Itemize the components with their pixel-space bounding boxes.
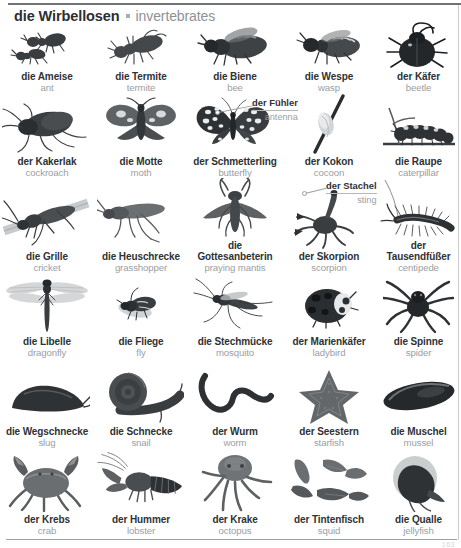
centipede-illustration [378,178,459,238]
label-german: die Muschel [390,426,446,437]
entry-labels: der Tausendfüßer centipede [378,240,459,274]
label-german: die Wespe [305,71,353,82]
entry-labels: der Schmetterling butterfly [193,156,276,179]
label-german: der Marienkäfer [293,336,366,347]
entry-ant[interactable]: die Ameise ant [0,26,94,94]
callout-english: sting [326,195,377,205]
page-number: 163 [442,541,455,548]
callout-german: der Stachel [326,181,377,192]
entry-moth[interactable]: die Motte moth [94,94,188,179]
label-german: die Gottesanbeterin [190,240,280,262]
label-english: fly [118,348,163,359]
mosquito-illustration [190,274,280,334]
callout-underline [326,193,377,194]
worm-illustration [190,368,280,424]
label-english: starfish [299,438,358,449]
ladybird-illustration [284,274,374,334]
label-german: der Krake [212,514,257,525]
entry-labels: die Wespe wasp [305,71,353,94]
label-english: termite [115,83,167,94]
entry-centipede[interactable]: der Tausendfüßer centipede [376,179,461,274]
label-german: die Libelle [23,336,71,347]
entry-spider[interactable]: die Spinne spider [376,274,461,359]
label-english: cricket [26,263,68,274]
entry-row: die Grille cricket [0,179,461,274]
entry-labels: der Krake octopus [212,514,257,537]
callout-sting: der Stachel sting [326,181,377,205]
label-german: die Ameise [21,71,72,82]
label-german: die Schnecke [110,426,173,437]
entry-termite[interactable]: die Termite termite [94,26,188,94]
invertebrates-vocabulary-page: die Wirbellosen invertebrates [0,0,461,548]
label-german: der Kokon [305,156,354,167]
entry-snail[interactable]: die Schnecke snail [94,359,188,449]
praying-mantis-illustration [190,178,280,238]
entry-row: der Krebs crab [0,449,461,537]
top-rule [8,3,461,5]
entry-slug[interactable]: die Wegschnecke slug [0,359,94,449]
entry-labels: die Raupe caterpillar [395,156,442,179]
callout-anchor-sting [302,191,307,196]
label-german: der Skorpion [299,251,359,262]
entry-crab[interactable]: der Krebs crab [0,449,94,537]
callout-english: antenna [252,112,298,122]
entry-fly[interactable]: die Fliege fly [94,274,188,359]
entry-ladybird[interactable]: der Marienkäfer ladybird [282,274,376,359]
entry-dragonfly[interactable]: die Libelle dragonfly [0,274,94,359]
entry-squid[interactable]: der Tintenfisch squid [282,449,376,537]
entry-beetle[interactable]: der Käfer beetle [376,26,461,94]
entry-cricket[interactable]: die Grille cricket [0,179,94,274]
entry-row: der Kakerlak cockroach [0,94,461,179]
grasshopper-illustration [96,189,186,249]
label-english: ant [21,83,72,94]
label-english: cocoon [305,168,354,179]
entry-worm[interactable]: der Wurm worm [188,359,282,449]
entry-caterpillar[interactable]: die Raupe caterpillar [376,94,461,179]
entry-grasshopper[interactable]: die Heuschrecke grasshopper [94,179,188,274]
bee-illustration [190,25,280,69]
label-german: der Krebs [24,514,70,525]
slug-illustration [2,368,92,424]
dragonfly-illustration [2,274,92,334]
page-title-english: invertebrates [136,8,216,24]
label-english: moth [120,168,163,179]
entry-wasp[interactable]: die Wespe wasp [282,26,376,94]
entry-starfish[interactable]: der Seestern starfish [282,359,376,449]
entry-labels: die Schnecke snail [110,426,173,449]
entry-labels: der Marienkäfer ladybird [293,336,366,359]
label-english: centipede [378,263,459,274]
label-german: die Heuschrecke [102,251,180,262]
label-german: der Schmetterling [193,156,276,167]
octopus-illustration [190,452,280,512]
bullet-separator-icon [126,14,130,18]
bottom-rule [6,539,457,540]
entry-labels: die Wegschnecke slug [6,426,88,449]
entry-lobster[interactable]: der Hummer lobster [94,449,188,537]
callout-antenna: der Fühler antenna [252,98,298,122]
label-english: cockroach [18,168,77,179]
entry-labels: die Fliege fly [118,336,163,359]
label-german: der Tintenfisch [294,514,364,525]
label-english: spider [394,348,444,359]
entry-praying-mantis[interactable]: die Gottesanbeterin praying mantis [188,179,282,274]
entry-labels: der Skorpion scorpion [299,251,359,274]
entry-labels: die Grille cricket [26,251,68,274]
label-german: der Wurm [212,426,258,437]
entry-labels: die Motte moth [120,156,163,179]
callout-underline [252,110,298,111]
entry-cockroach[interactable]: der Kakerlak cockroach [0,94,94,179]
label-german: die Grille [26,251,68,262]
label-english: jellyfish [395,526,442,537]
entry-jellyfish[interactable]: die Qualle jellyfish [376,449,461,537]
label-german: die Biene [213,71,257,82]
entry-mosquito[interactable]: die Stechmücke mosquito [188,274,282,359]
entry-octopus[interactable]: der Krake octopus [188,449,282,537]
termite-illustration [96,25,186,69]
label-english: mussel [390,438,446,449]
label-english: grasshopper [102,263,180,274]
entry-mussel[interactable]: die Muschel mussel [376,359,461,449]
entry-labels: der Seestern starfish [299,426,358,449]
entry-labels: die Biene bee [213,71,257,94]
entry-labels: die Termite termite [115,71,167,94]
entry-bee[interactable]: die Biene bee [188,26,282,94]
